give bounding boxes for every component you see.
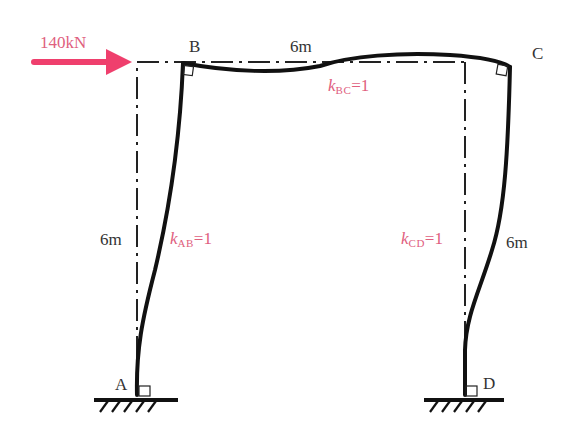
stiffness-cd-symbol: k [401,229,409,248]
stiffness-bc-value: =1 [351,76,369,95]
joint-d-marker [466,386,477,396]
stiffness-cd-label: kCD=1 [401,230,443,249]
stiffness-cd-subscript: CD [409,237,425,249]
left-column-height-label: 6m [100,231,122,248]
load-arrow [34,49,132,75]
stiffness-ab-label: kAB=1 [170,230,212,249]
right-column-height-label: 6m [506,234,528,251]
stiffness-cd-value: =1 [425,229,443,248]
stiffness-bc-subscript: BC [336,84,352,96]
stiffness-bc-label: kBC=1 [328,77,369,96]
stiffness-ab-symbol: k [170,229,178,248]
beam-length-label: 6m [290,38,312,55]
joint-a-marker [139,386,150,396]
undeformed-frame [137,62,465,395]
stiffness-ab-value: =1 [194,229,212,248]
node-a-label: A [115,376,127,393]
support-a [94,400,178,412]
deformed-frame [137,54,510,395]
joint-b-marker [183,65,193,75]
load-label: 140kN [40,34,86,51]
support-d [424,400,504,412]
node-b-label: B [189,38,200,55]
stiffness-ab-subscript: AB [178,237,194,249]
deformed-column-cd [465,67,510,395]
stiffness-bc-symbol: k [328,76,336,95]
load-arrow-head [106,49,132,75]
joint-c-marker [496,64,508,76]
node-c-label: C [532,45,543,62]
node-d-label: D [483,375,495,392]
